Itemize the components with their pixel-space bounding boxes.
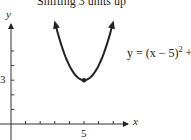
curve-arrow-right-icon (108, 21, 115, 30)
chart-plot (0, 0, 191, 140)
vertex-point (82, 78, 87, 83)
curve-arrow-left-icon (53, 21, 60, 30)
parabola-curve (56, 25, 113, 80)
